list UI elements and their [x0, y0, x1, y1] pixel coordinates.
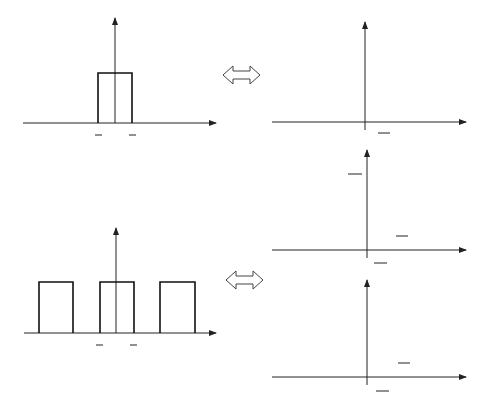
panel-impulse-spectrum: [272, 280, 466, 391]
pulse-right: [160, 282, 195, 333]
panel-periodic-pulse-train: [24, 228, 216, 345]
pulse-center: [100, 282, 134, 333]
double-arrow-top-icon: [223, 66, 260, 84]
double-arrow-bottom-icon: [226, 271, 263, 289]
diagram-canvas: [0, 0, 486, 414]
panel-continuous-spectrum: [272, 22, 466, 133]
panel-single-pulse: [23, 18, 216, 135]
pulse-left: [39, 282, 73, 333]
panel-fourier-series-coefficients: [272, 150, 466, 263]
